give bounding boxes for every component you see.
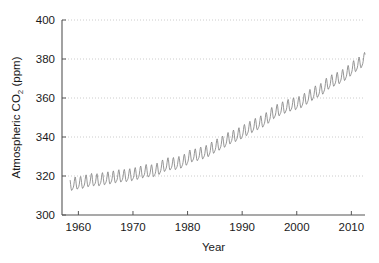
- x-tick-label-2000: 2000: [284, 221, 310, 233]
- x-tick-label-1960: 1960: [66, 221, 92, 233]
- chart-figure: 3003203403603804001960197019801990200020…: [0, 0, 379, 263]
- y-tick-label-380: 380: [36, 53, 55, 65]
- data-series: [70, 52, 365, 190]
- x-tick-label-1970: 1970: [120, 221, 146, 233]
- axis-lines: [62, 20, 365, 215]
- tick-labels: 3003203403603804001960197019801990200020…: [36, 14, 364, 233]
- y-tick-label-360: 360: [36, 92, 55, 104]
- x-tick-label-2010: 2010: [339, 221, 365, 233]
- co2-line-chart: 3003203403603804001960197019801990200020…: [0, 0, 379, 263]
- co2-curve: [70, 52, 365, 190]
- x-axis-title: Year: [202, 241, 225, 253]
- y-tick-label-300: 300: [36, 209, 55, 221]
- y-axis-title: Atmospheric CO2 (ppm): [10, 56, 25, 178]
- y-tick-label-340: 340: [36, 131, 55, 143]
- y-tick-label-400: 400: [36, 14, 55, 26]
- x-tick-label-1990: 1990: [229, 221, 255, 233]
- tick-marks: [62, 20, 351, 215]
- y-tick-label-320: 320: [36, 170, 55, 182]
- x-tick-label-1980: 1980: [175, 221, 201, 233]
